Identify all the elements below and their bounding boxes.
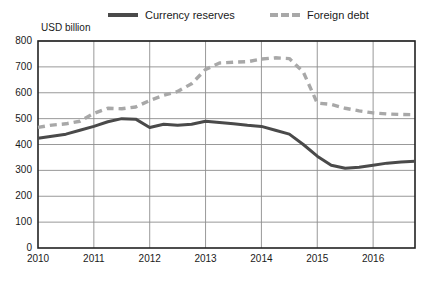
- x-axis-tick-2014: 2014: [241, 254, 281, 264]
- y-axis-tick-500: 500: [0, 114, 32, 124]
- series-line-currency-reserves: [38, 119, 415, 169]
- x-axis-tick-2011: 2011: [74, 254, 114, 264]
- x-axis-tick-2012: 2012: [130, 254, 170, 264]
- plot-svg: [0, 0, 429, 283]
- y-axis-tick-200: 200: [0, 191, 32, 201]
- chart-container: Currency reserves Foreign debt USD billi…: [0, 0, 429, 283]
- x-axis-tick-2016: 2016: [353, 254, 393, 264]
- y-axis-tick-600: 600: [0, 88, 32, 98]
- plot-area: 8007006005004003002001000 20102011201220…: [0, 0, 429, 283]
- y-axis-tick-700: 700: [0, 62, 32, 72]
- y-axis-tick-0: 0: [0, 243, 32, 253]
- y-axis-tick-800: 800: [0, 36, 32, 46]
- y-axis-tick-400: 400: [0, 140, 32, 150]
- y-axis-tick-300: 300: [0, 165, 32, 175]
- x-axis-tick-2015: 2015: [297, 254, 337, 264]
- x-axis-tick-2013: 2013: [186, 254, 226, 264]
- y-axis-tick-100: 100: [0, 217, 32, 227]
- x-axis-tick-2010: 2010: [18, 254, 58, 264]
